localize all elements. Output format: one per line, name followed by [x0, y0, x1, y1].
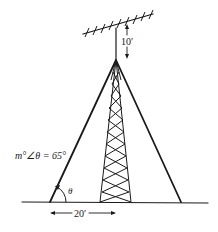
angle-theta: θ [55, 185, 73, 202]
left-guy-wire [50, 60, 116, 202]
antenna [83, 10, 153, 37]
antenna-height-label: 10′ [121, 36, 133, 47]
antenna-height-dimension: 10′ [121, 24, 133, 59]
theta-label: θ [68, 186, 73, 196]
base-distance-label: 20′ [74, 208, 86, 219]
base-distance-dimension: 20′ [50, 208, 116, 219]
tower-diagram: 10′ θ m°∠θ = 65° 20′ [0, 0, 218, 232]
angle-measure-label: m°∠θ = 65° [15, 150, 66, 161]
